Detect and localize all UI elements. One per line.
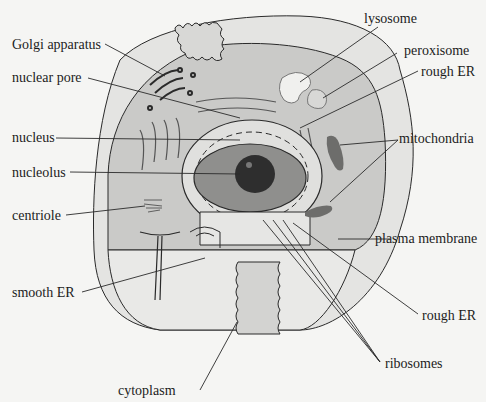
- label-nucleolus: nucleolus: [12, 166, 66, 180]
- label-smooth-er: smooth ER: [12, 286, 75, 300]
- label-nuclear-pore: nuclear pore: [12, 71, 82, 85]
- label-cytoplasm: cytoplasm: [118, 384, 176, 398]
- label-peroxisome: peroxisome: [404, 44, 469, 58]
- label-golgi-apparatus: Golgi apparatus: [12, 38, 101, 52]
- peroxisome-shape: [308, 90, 327, 109]
- cut-face-lower: [108, 250, 355, 330]
- label-plasma-membrane: plasma membrane: [375, 232, 477, 246]
- label-rough-er-bottom: rough ER: [422, 309, 476, 323]
- label-lysosome: lysosome: [364, 12, 417, 26]
- cytoplasm-band: [236, 262, 280, 334]
- label-nucleus: nucleus: [12, 131, 55, 145]
- label-centriole: centriole: [12, 209, 61, 223]
- label-mitochondria: mitochondria: [399, 132, 474, 146]
- label-rough-er-top: rough ER: [421, 65, 475, 79]
- cell-illustration: [0, 0, 486, 402]
- nucleolus-shape: [235, 155, 275, 193]
- label-ribosomes: ribosomes: [385, 357, 443, 371]
- cell-diagram: Golgi apparatus nuclear pore nucleus nuc…: [0, 0, 486, 402]
